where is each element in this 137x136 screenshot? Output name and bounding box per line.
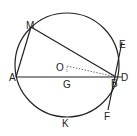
tangent-ef [108, 42, 122, 110]
label-d: D [121, 72, 128, 83]
label-f: F [104, 111, 110, 122]
label-b: B [111, 78, 118, 89]
label-o: O [56, 62, 64, 73]
geometry-diagram: M E O A G B D K F [0, 0, 137, 136]
segment-mb [31, 27, 116, 77]
label-g: G [63, 79, 71, 90]
label-e: E [119, 39, 126, 50]
label-m: M [26, 20, 34, 31]
segment-am [16, 27, 31, 77]
radius-ob [67, 66, 116, 77]
label-a: A [9, 72, 16, 83]
label-k: K [62, 118, 69, 129]
